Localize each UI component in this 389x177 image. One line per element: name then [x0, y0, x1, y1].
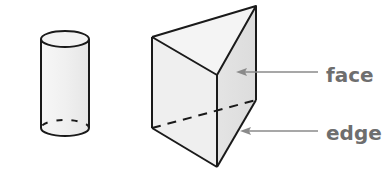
face-label: face	[326, 63, 374, 87]
triangular-prism-shape	[152, 6, 256, 167]
cylinder-shape	[41, 31, 89, 136]
edge-pointer-arrow	[240, 127, 318, 135]
edge-label: edge	[326, 121, 382, 145]
cylinder-top-face	[41, 31, 89, 47]
geometry-diagram	[0, 0, 389, 177]
